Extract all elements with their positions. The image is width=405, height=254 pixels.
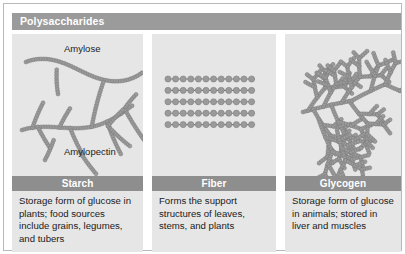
glycogen-description: Storage form of glucose in animals; stor… <box>285 191 401 233</box>
fiber-diagram <box>152 34 276 176</box>
panel-starch: Amylose Amylopectin Starch Storage form … <box>12 34 143 252</box>
fiber-description: Forms the support structures of leaves, … <box>152 191 276 233</box>
starch-label-bar: Starch <box>12 176 143 191</box>
glycogen-label: Glycogen <box>285 176 401 191</box>
figure-frame: Polysaccharides Amylose Amylopectin Star… <box>3 3 402 251</box>
panel-glycogen: Glycogen Storage form of glucose in anim… <box>285 34 401 252</box>
starch-label: Starch <box>12 176 143 191</box>
fiber-label-bar: Fiber <box>152 176 276 191</box>
amylose-label: Amylose <box>64 43 100 54</box>
figure-header-bar: Polysaccharides <box>12 13 401 30</box>
page-title: Polysaccharides <box>20 14 104 29</box>
fiber-molecule-svg <box>152 34 276 176</box>
panel-fiber: Fiber Forms the support structures of le… <box>152 34 276 252</box>
glycogen-diagram <box>285 34 401 176</box>
glycogen-molecule-svg <box>285 34 401 176</box>
glycogen-label-bar: Glycogen <box>285 176 401 191</box>
amylopectin-label: Amylopectin <box>64 146 116 157</box>
starch-description: Storage form of glucose in plants; food … <box>12 191 143 245</box>
fiber-label: Fiber <box>152 176 276 191</box>
polysaccharides-figure: Polysaccharides Amylose Amylopectin Star… <box>0 0 405 254</box>
